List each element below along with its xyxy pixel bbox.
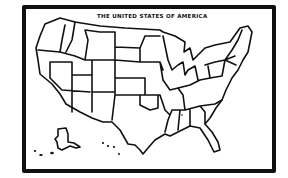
islands bbox=[34, 114, 183, 156]
us-map-outline bbox=[0, 0, 288, 178]
alaska-outline bbox=[55, 128, 80, 150]
